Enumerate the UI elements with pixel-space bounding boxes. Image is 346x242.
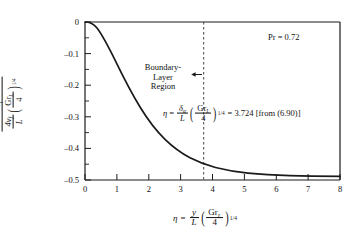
velocity-profile-curve [85, 22, 340, 176]
xlabel-paren-open: ( [201, 212, 204, 224]
annot-l: L [178, 114, 187, 123]
x-tick-label-0: 0 [83, 185, 87, 194]
xlabel-y-over-l: y L [190, 208, 199, 228]
ylabel-l: L [14, 117, 23, 126]
x-tick-label-1: 1 [115, 185, 119, 194]
annot-eta: η [163, 109, 167, 118]
ylabel-paren-open: ( [8, 110, 20, 113]
y-tick-label-n0.1: –0.1 [64, 49, 79, 58]
y-tick-label-n0.5: –0.5 [64, 176, 79, 185]
x-axis-ticks [85, 174, 340, 180]
ylabel-4v: 4v [3, 119, 13, 127]
xlabel-l: L [190, 219, 199, 228]
annot-4: 4 [199, 114, 207, 123]
prandtl-number-label: Pr = 0.72 [268, 33, 299, 42]
y-tick-label-n0.2: –0.2 [64, 81, 79, 90]
xlabel-y: y [190, 208, 198, 217]
annot-gr-over-4: GrL 4 [195, 104, 211, 123]
bl-line-3: Region [135, 82, 191, 92]
annot-gr: Gr [197, 103, 206, 113]
x-tick-label-8: 8 [338, 185, 342, 194]
x-tick-label-6: 6 [274, 185, 278, 194]
x-tick-label-2: 2 [147, 185, 151, 194]
boundary-layer-arrow-icon [191, 72, 202, 76]
boundary-layer-region-label: Boundary- Layer Region [135, 63, 191, 92]
x-tick-label-5: 5 [242, 185, 246, 194]
xlabel-equals: = [181, 213, 186, 223]
annot-result: = 3.724 [from (6.90)] [228, 109, 301, 118]
x-tick-label-4: 4 [210, 185, 214, 194]
xlabel-4: 4 [210, 219, 219, 228]
annot-delta-over-l: δα L [177, 104, 188, 123]
annot-equals: = [169, 109, 174, 118]
x-axis-label: η = y L ( GrL 4 ) 1/4 [173, 208, 237, 228]
x-tick-label-3: 3 [178, 185, 182, 194]
ylabel-4v-over-l: 4vf L [4, 115, 24, 129]
ylabel-paren-close: ) [8, 86, 20, 89]
ylabel-4: 4 [14, 95, 23, 103]
ylabel-gr: Gr [3, 97, 13, 106]
xlabel-gr: Gr [208, 207, 218, 217]
x-tick-label-7: 7 [306, 185, 310, 194]
xlabel-eta: η [173, 213, 177, 223]
y-tick-label-n0.4: –0.4 [64, 144, 79, 153]
xlabel-paren-close: ) [225, 212, 228, 224]
ylabel-gr-over-4: GrL 4 [4, 92, 24, 108]
annot-paren-close: ) [213, 107, 216, 119]
ylabel-main-fraction: vf 4vf L ( GrL 4 ) 1/4 [0, 76, 23, 131]
y-axis-label: vf 4vf L ( GrL 4 ) 1/4 [0, 75, 23, 132]
annot-paren-open: ( [190, 107, 193, 119]
y-tick-label-0: 0 [75, 18, 79, 27]
y-tick-label-n0.3: –0.3 [64, 113, 79, 122]
figure-container: 0 1 2 3 4 5 6 7 8 0 –0.1 –0.2 –0.3 –0.4 … [0, 0, 346, 242]
delta-alpha-annotation: η = δα L ( GrL 4 ) 1/4 = 3.724 [from (6.… [163, 104, 301, 123]
xlabel-gr-over-4: GrL 4 [206, 208, 223, 228]
